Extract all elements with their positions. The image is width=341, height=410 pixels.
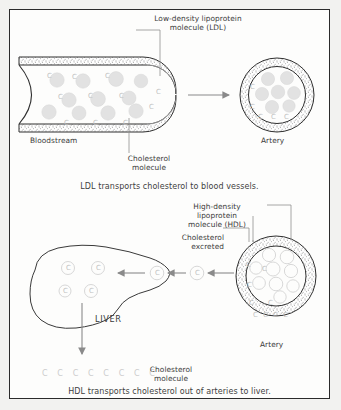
figure-frame: C C C C C C C C C C C C C C C C Low-dens… [9,9,330,399]
ldl-molecule [283,100,295,112]
c-glyph: C [284,114,289,121]
c-glyph: C [268,300,273,307]
c-glyph: C [253,312,258,319]
c-glyph: C [263,312,268,319]
artery-cross-section-bottom [236,236,316,316]
ldl-molecule [271,85,285,99]
hdl-label: High-density lipoprotein molecule (HDL) [178,202,256,230]
c-glyph: C [72,74,77,81]
cholesterol-excreted-leader [223,228,249,242]
caption-top: LDL transports cholesterol to blood vess… [10,182,329,191]
c-glyph: C [96,265,101,272]
c-glyph: C [149,104,154,111]
c-glyph: C [155,270,160,277]
c-glyph: C [88,93,93,100]
artery-label-bottom: Artery [260,340,283,349]
c-glyph: C [63,288,68,295]
ldl-molecule [129,104,143,118]
liver-label: LIVER [95,314,121,324]
cholesterol-molecule-label: Cholesterol molecule [113,154,185,172]
c-glyph: C [273,312,278,319]
c-glyph: C [246,262,251,269]
caption-bottom: HDL transports cholesterol out of arteri… [10,387,329,396]
ldl-molecule [122,91,136,105]
ldl-molecule [134,74,148,88]
c-glyph: C [156,89,161,96]
vessel-upper-wall [19,57,176,94]
artery-cross-section-top [240,58,314,132]
c-glyph: C [271,114,276,121]
ldl-molecule [288,87,301,100]
ldl-molecule [280,71,293,84]
ldl-molecule [42,105,56,119]
ldl-molecule [109,72,124,87]
c-glyph: C [250,104,255,111]
ldl-molecule [72,106,86,120]
c-glyph: C [258,114,263,121]
c-glyph: C [89,288,94,295]
ldl-label: Low-density lipoprotein molecule (LDL) [128,14,268,32]
c-glyph: C [195,270,200,277]
ldl-molecule [255,87,268,100]
figure-root: C C C C C C C C C C C C C C C C Low-dens… [0,0,341,410]
ldl-molecule [265,100,278,113]
c-glyph: C [93,120,98,127]
cholesterol-molecule-label-bottom: Cholesterol molecule [135,365,207,383]
c-glyph: C [119,93,124,100]
vessel-left-opening [19,65,32,124]
hdl-leader-line [267,205,291,206]
c-glyph: C [283,312,288,319]
ldl-molecule [101,106,115,120]
c-glyph: C [247,282,252,289]
artery-label-top: Artery [261,136,284,145]
c-glyph: C [47,73,52,80]
c-glyph: C [262,266,267,273]
ldl-molecule [62,93,76,107]
cholesterol-excreted-label: Cholesterol excreted [166,233,224,251]
c-glyph: C [64,120,69,127]
bloodstream-label: Bloodstream [30,136,77,145]
ldl-molecule [76,74,90,88]
c-glyph: C [250,84,255,91]
c-glyph: C [105,73,110,80]
c-glyph: C [249,300,254,307]
c-glyph: C [123,120,128,127]
c-glyph: C [58,94,63,101]
ldl-molecule [261,72,274,85]
c-glyph: C [66,265,71,272]
